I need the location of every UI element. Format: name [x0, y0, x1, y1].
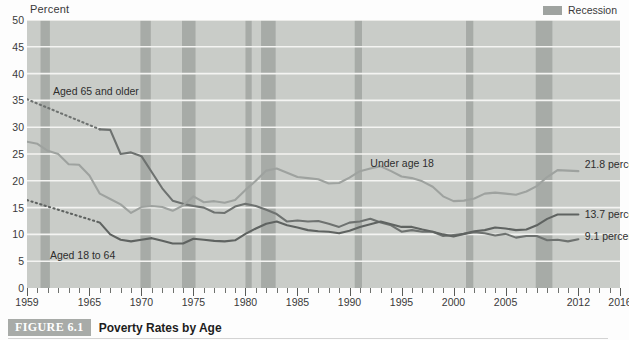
x-tick-mark [558, 288, 559, 293]
x-tick-mark [599, 288, 600, 293]
series-annotation: Under age 18 [370, 157, 434, 169]
x-tick-mark [183, 288, 184, 293]
y-tick-label: 5 [2, 255, 24, 267]
series-annotation: Aged 65 and older [53, 85, 139, 97]
caption-divider [8, 338, 608, 339]
x-tick-mark [308, 288, 309, 293]
series-end-label: 13.7 percent [585, 208, 629, 220]
x-tick-mark [370, 288, 371, 293]
x-tick-mark [256, 288, 257, 293]
x-tick-mark [474, 288, 475, 293]
x-tick-mark [131, 288, 132, 293]
y-axis: 05101520253035404550 [0, 20, 24, 288]
x-tick-mark [297, 288, 298, 296]
x-tick-label: 1959 [15, 296, 38, 308]
x-tick-mark [318, 288, 319, 293]
y-axis-title: Percent [30, 3, 69, 15]
x-tick-mark [79, 288, 80, 293]
x-tick-mark [464, 288, 465, 293]
series-line-dashed-0 [27, 99, 100, 129]
x-tick-label: 2005 [494, 296, 517, 308]
x-tick-mark [266, 288, 267, 293]
series-line-2 [100, 215, 579, 244]
x-tick-mark [204, 288, 205, 293]
x-tick-mark [526, 288, 527, 293]
x-tick-mark [121, 288, 122, 293]
x-tick-mark [235, 288, 236, 293]
x-tick-mark [173, 288, 174, 293]
x-tick-mark [245, 288, 246, 296]
x-tick-mark [287, 288, 288, 293]
y-tick-label: 30 [2, 121, 24, 133]
x-tick-mark [537, 288, 538, 293]
x-tick-mark [454, 288, 455, 296]
x-tick-mark [277, 288, 278, 293]
y-tick-label: 25 [2, 148, 24, 160]
y-tick-label: 0 [2, 282, 24, 294]
x-tick-mark [27, 288, 28, 296]
x-axis-labels: 1959196519701975198019851990199520002005… [0, 296, 629, 312]
x-tick-mark [412, 288, 413, 293]
x-tick-mark [610, 288, 611, 293]
x-tick-mark [329, 288, 330, 293]
y-tick-label: 40 [2, 68, 24, 80]
y-tick-label: 10 [2, 228, 24, 240]
x-tick-mark [339, 288, 340, 293]
series-line-1 [27, 142, 578, 213]
chart-svg [27, 20, 620, 288]
x-tick-mark [485, 288, 486, 293]
x-tick-mark [110, 288, 111, 293]
x-tick-mark [100, 288, 101, 293]
x-tick-mark [58, 288, 59, 293]
x-tick-mark [360, 288, 361, 293]
x-tick-mark [381, 288, 382, 293]
figure-container: Percent Recession 05101520253035404550 1… [0, 0, 629, 340]
x-tick-mark [193, 288, 194, 296]
x-tick-label: 1985 [286, 296, 309, 308]
series-line-dashed-2 [27, 200, 100, 223]
x-tick-mark [391, 288, 392, 293]
x-tick-mark [37, 288, 38, 293]
y-tick-label: 45 [2, 41, 24, 53]
x-tick-label: 2012 [567, 296, 590, 308]
x-tick-mark [547, 288, 548, 293]
series-end-label: 21.8 percent [585, 158, 629, 170]
recession-legend-label: Recession [568, 4, 617, 16]
x-tick-mark [214, 288, 215, 293]
x-tick-label: 1990 [338, 296, 361, 308]
recession-legend-swatch [543, 6, 562, 15]
x-tick-mark [433, 288, 434, 293]
x-tick-mark [620, 288, 621, 296]
x-tick-mark [516, 288, 517, 293]
x-tick-mark [402, 288, 403, 296]
series-annotation: Aged 18 to 64 [50, 249, 115, 261]
y-tick-label: 15 [2, 202, 24, 214]
series-end-label: 9.1 percent [585, 230, 629, 242]
x-tick-label: 2000 [442, 296, 465, 308]
y-tick-label: 50 [2, 14, 24, 26]
x-tick-mark [495, 288, 496, 293]
x-tick-mark [225, 288, 226, 293]
figure-caption: FIGURE 6.1 Poverty Rates by Age [0, 315, 629, 340]
y-tick-label: 35 [2, 94, 24, 106]
x-tick-mark [568, 288, 569, 293]
x-tick-label: 1975 [182, 296, 205, 308]
x-tick-label: 1980 [234, 296, 257, 308]
x-tick-mark [443, 288, 444, 293]
figure-number-badge: FIGURE 6.1 [8, 319, 91, 336]
x-tick-mark [48, 288, 49, 293]
x-tick-mark [422, 288, 423, 293]
x-tick-mark [350, 288, 351, 296]
x-tick-mark [89, 288, 90, 296]
x-tick-mark [152, 288, 153, 293]
x-tick-mark [578, 288, 579, 296]
plot-area [27, 20, 620, 288]
x-tick-mark [589, 288, 590, 293]
figure-title: Poverty Rates by Age [99, 321, 222, 335]
series-line-0 [100, 129, 579, 241]
x-tick-label: 2016 [608, 296, 629, 308]
x-tick-mark [141, 288, 142, 296]
legend: Recession [543, 4, 617, 16]
x-tick-label: 1970 [130, 296, 153, 308]
x-tick-mark [506, 288, 507, 296]
